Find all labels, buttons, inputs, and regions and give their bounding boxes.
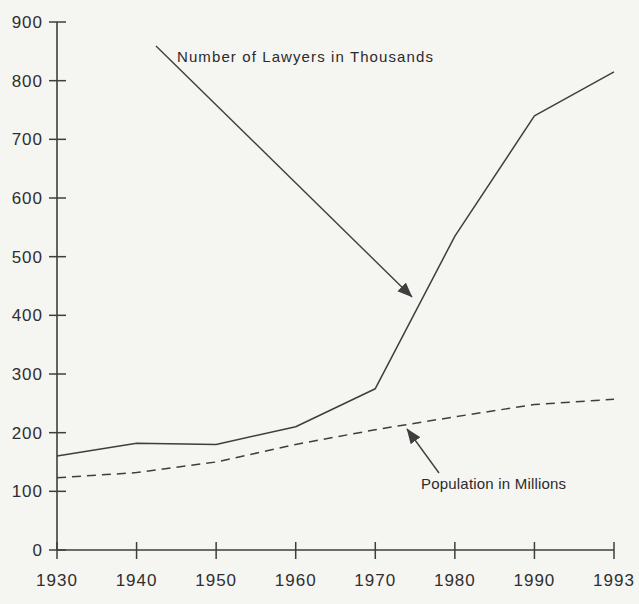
population-line [57,399,614,478]
lawyers-vs-population-chart: 0100200300400500600700800900 19301940195… [0,0,639,604]
population-annotation-arrow [407,429,439,473]
y-tick-label-0: 0 [5,542,43,559]
y-tick-label-600: 600 [5,190,43,207]
population-series-annotation: Population in Millions [421,476,566,493]
x-tick-label-1960: 1960 [256,572,336,589]
y-tick-label-700: 700 [5,131,43,148]
x-tick-label-1993: 1993 [574,572,639,589]
lawyers-annotation-arrow [156,46,412,297]
chart-canvas [0,0,639,604]
x-tick-label-1940: 1940 [97,572,177,589]
y-tick-label-100: 100 [5,483,43,500]
y-tick-label-300: 300 [5,366,43,383]
x-tick-label-1950: 1950 [176,572,256,589]
x-tick-label-1930: 1930 [17,572,97,589]
y-tick-label-800: 800 [5,72,43,89]
x-tick-label-1980: 1980 [415,572,495,589]
y-tick-label-500: 500 [5,248,43,265]
x-tick-label-1970: 1970 [335,572,415,589]
y-tick-label-900: 900 [5,14,43,31]
y-tick-label-400: 400 [5,307,43,324]
y-tick-label-200: 200 [5,424,43,441]
x-tick-label-1990: 1990 [494,572,574,589]
lawyers-series-annotation: Number of Lawyers in Thousands [177,49,434,66]
lawyers-line [57,72,614,456]
